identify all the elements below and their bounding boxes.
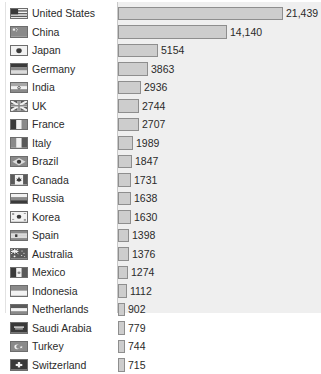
bar-container	[118, 118, 139, 132]
country-label: Canada	[32, 173, 69, 187]
bar	[118, 192, 131, 206]
bar-container	[118, 25, 227, 39]
chart-row: Mexico1274	[0, 263, 321, 282]
flag-netherlands-icon	[10, 304, 28, 316]
bar-value-label: 1989	[136, 136, 159, 150]
flag-germany-icon	[10, 63, 28, 75]
country-label: Spain	[32, 228, 59, 242]
country-label: Japan	[32, 43, 61, 57]
flag-united-states-icon	[10, 8, 28, 20]
bar	[118, 247, 129, 261]
chart-row: Canada1731	[0, 171, 321, 190]
chart-row: UK2744	[0, 97, 321, 116]
bar-container	[118, 266, 128, 280]
bar-value-label: 715	[128, 358, 146, 372]
country-label: France	[32, 117, 65, 131]
bar	[118, 303, 125, 317]
bar-container	[118, 62, 148, 76]
bar	[118, 155, 132, 169]
country-label: Saudi Arabia	[32, 321, 92, 335]
bar	[118, 266, 128, 280]
country-label: India	[32, 80, 55, 94]
bar	[118, 81, 141, 95]
bar-container	[118, 7, 283, 21]
bar-value-label: 1630	[134, 210, 157, 224]
flag-spain-icon	[10, 230, 28, 242]
bar-container	[118, 229, 129, 243]
chart-rows: United States21,439China14,140Japan5154G…	[0, 4, 321, 374]
bar-value-label: 2707	[142, 117, 165, 131]
country-label: Russia	[32, 191, 64, 205]
bar	[118, 358, 125, 372]
bar-value-label: 21,439	[286, 6, 318, 20]
flag-india-icon	[10, 82, 28, 94]
country-label: Australia	[32, 247, 73, 261]
bar-value-label: 1274	[131, 265, 154, 279]
bar-value-label: 902	[128, 302, 146, 316]
bar-value-label: 1847	[135, 154, 158, 168]
chart-row: India2936	[0, 78, 321, 97]
flag-russia-icon	[10, 193, 28, 205]
bar-container	[118, 44, 158, 58]
bar	[118, 229, 129, 243]
chart-row: Spain1398	[0, 226, 321, 245]
bar-value-label: 779	[128, 321, 146, 335]
bar	[118, 321, 125, 335]
bar-value-label: 1112	[130, 284, 152, 298]
chart-row: Japan5154	[0, 41, 321, 60]
country-label: Germany	[32, 62, 75, 76]
bar	[118, 99, 139, 113]
flag-saudi-arabia-icon	[10, 322, 28, 334]
country-label: China	[32, 25, 59, 39]
bar-container	[118, 303, 125, 317]
chart-row: Indonesia1112	[0, 282, 321, 301]
bar-container	[118, 247, 129, 261]
flag-canada-icon	[10, 174, 28, 186]
bar	[118, 25, 227, 39]
bar-value-label: 1376	[132, 247, 155, 261]
bar	[118, 340, 125, 354]
flag-italy-icon	[10, 137, 28, 149]
country-label: United States	[32, 6, 95, 20]
flag-switzerland-icon	[10, 359, 28, 371]
bar	[118, 210, 131, 224]
country-label: Brazil	[32, 154, 58, 168]
flag-indonesia-icon	[10, 285, 28, 297]
bar	[118, 118, 139, 132]
bar-value-label: 744	[128, 339, 146, 353]
chart-row: Australia1376	[0, 245, 321, 264]
flag-china-icon	[10, 26, 28, 38]
flag-korea-icon	[10, 211, 28, 223]
flag-australia-icon	[10, 248, 28, 260]
bar-container	[118, 321, 125, 335]
country-label: Switzerland	[32, 358, 86, 372]
chart-row: Turkey744	[0, 337, 321, 356]
chart-row: Switzerland715	[0, 356, 321, 374]
chart-row: Netherlands902	[0, 300, 321, 319]
chart-row: United States21,439	[0, 4, 321, 23]
flag-turkey-icon	[10, 341, 28, 353]
bar-container	[118, 358, 125, 372]
flag-mexico-icon	[10, 267, 28, 279]
chart-row: Brazil1847	[0, 152, 321, 171]
bar-value-label: 1638	[134, 191, 157, 205]
bar-value-label: 1731	[134, 173, 157, 187]
chart-row: Korea1630	[0, 208, 321, 227]
country-label: Netherlands	[32, 302, 89, 316]
chart-row: Saudi Arabia779	[0, 319, 321, 338]
bar-container	[118, 136, 133, 150]
bar-value-label: 2936	[144, 80, 167, 94]
country-label: Turkey	[32, 339, 64, 353]
flag-uk-icon	[10, 100, 28, 112]
bar-container	[118, 173, 131, 187]
bar-container	[118, 99, 139, 113]
country-label: Italy	[32, 136, 51, 150]
country-label: Korea	[32, 210, 60, 224]
country-label: Indonesia	[32, 284, 78, 298]
bar-container	[118, 340, 125, 354]
bar-container	[118, 284, 127, 298]
bar-value-label: 14,140	[230, 25, 262, 39]
bar	[118, 7, 283, 21]
bar-value-label: 1398	[132, 228, 155, 242]
